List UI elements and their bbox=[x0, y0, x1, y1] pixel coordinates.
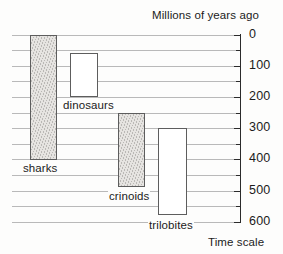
bar-label-trilobites: trilobites bbox=[148, 219, 194, 231]
time-scale-chart: Millions of years ago bbox=[0, 0, 283, 254]
axis-label-200: 200 bbox=[249, 90, 270, 103]
axis-tick-major bbox=[234, 191, 241, 192]
axis-tick-major bbox=[234, 35, 241, 36]
bar-label-dinosaurs: dinosaurs bbox=[62, 99, 115, 111]
axis-tick-major bbox=[234, 97, 241, 98]
bar-label-crinoids: crinoids bbox=[108, 190, 150, 202]
axis-tick-major bbox=[234, 159, 241, 160]
axis-tick-major bbox=[234, 66, 241, 67]
axis-label-400: 400 bbox=[249, 152, 270, 165]
bar-label-sharks: sharks bbox=[22, 162, 58, 174]
gridline bbox=[12, 206, 240, 207]
axis-label-300: 300 bbox=[249, 121, 270, 134]
bar-sharks bbox=[30, 35, 57, 160]
chart-caption: Time scale bbox=[208, 236, 264, 248]
axis-label-500: 500 bbox=[249, 184, 270, 197]
axis-label-600: 600 bbox=[249, 215, 270, 228]
axis-tick-major bbox=[234, 222, 241, 223]
axis-tick-minor bbox=[236, 50, 241, 51]
axis-tick-minor bbox=[236, 144, 241, 145]
plot-area: 0 100 200 300 400 500 600 sharks dinosau… bbox=[0, 0, 283, 254]
gridline bbox=[12, 222, 240, 223]
axis-tick-minor bbox=[236, 175, 241, 176]
axis-tick-major bbox=[234, 128, 241, 129]
axis-tick-minor bbox=[236, 113, 241, 114]
axis-label-100: 100 bbox=[249, 59, 270, 72]
axis-label-0: 0 bbox=[249, 28, 256, 41]
bar-dinosaurs bbox=[70, 53, 98, 97]
bar-trilobites bbox=[158, 128, 187, 215]
axis-tick-minor bbox=[236, 81, 241, 82]
axis-tick-minor bbox=[236, 206, 241, 207]
bar-crinoids bbox=[118, 113, 145, 188]
